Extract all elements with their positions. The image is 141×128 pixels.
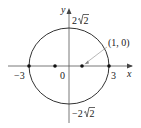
focus-label: (1, 0) xyxy=(108,37,130,49)
origin-label: 0 xyxy=(60,70,65,81)
left-intercept-label: −3 xyxy=(14,70,25,81)
top-intercept-label: 2 2 xyxy=(72,15,89,27)
bottom-intercept-coef: −2 xyxy=(72,108,83,119)
focus-pointer-line xyxy=(86,47,107,63)
y-axis-label: y xyxy=(60,4,66,15)
top-intercept-coef: 2 xyxy=(72,15,77,26)
top-intercept-rad: 2 xyxy=(84,15,89,26)
point-right-vertex xyxy=(107,64,111,68)
x-axis-label: x xyxy=(126,68,132,79)
ellipse-diagram: x y −3 0 3 (1, 0) 2 2 −2 2 xyxy=(0,0,141,128)
bottom-intercept-label: −2 2 xyxy=(72,108,95,120)
y-axis-arrow-icon xyxy=(67,8,72,14)
bottom-intercept-rad: 2 xyxy=(90,108,95,119)
point-right-focus xyxy=(80,64,84,68)
point-left-vertex xyxy=(27,64,31,68)
right-intercept-label: 3 xyxy=(111,70,116,81)
point-left-focus xyxy=(53,64,57,68)
